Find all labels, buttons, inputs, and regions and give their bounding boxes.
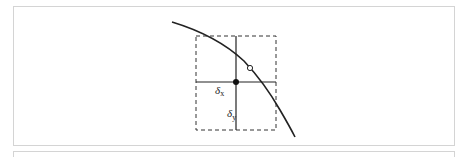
filled-point — [233, 79, 239, 85]
open-point — [247, 65, 252, 70]
diagram-canvas: δx δy — [0, 0, 468, 157]
delta-y-label: δy — [227, 107, 236, 122]
delta-x-label: δx — [215, 84, 224, 98]
